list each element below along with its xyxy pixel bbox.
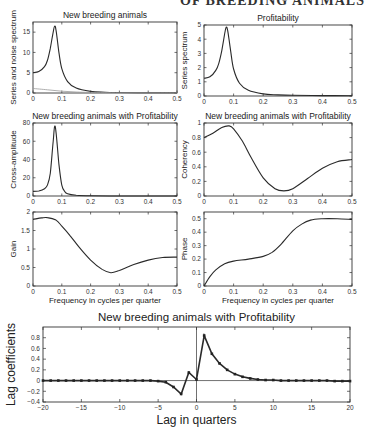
y-tick-label: 0 [197,92,201,99]
x-tick-label: 0.3 [288,198,297,205]
y-tick-label: 0.8 [31,334,40,341]
x-tick-label: 0 [31,288,35,295]
data-marker [172,386,175,389]
data-marker [188,371,191,374]
x-tick-label: 0.4 [318,198,327,205]
data-marker [111,379,114,382]
x-axis-label: Lag in quarters [156,413,236,427]
x-tick-label: 15 [308,404,316,411]
series-line [33,217,177,272]
plot-profitability-spectrum: 00.10.20.30.40.5012345ProfitabilitySerie… [180,13,357,105]
y-tick-label: 80 [23,119,31,126]
x-tick-label: 0 [202,98,206,105]
axes-frame [204,25,352,96]
x-tick-label: 0.5 [347,288,356,295]
x-tick-label: 20 [346,404,354,411]
x-tick-label: 0 [202,198,206,205]
y-tick-label: 1.5 [21,227,30,234]
x-tick-label: 0.4 [318,98,327,105]
x-tick-label: 0.1 [229,288,238,295]
x-tick-label: 0.2 [259,198,268,205]
x-tick-label: 0 [31,95,35,102]
y-tick-label: 0.2 [31,366,40,373]
data-marker [65,379,68,382]
axes-frame [204,212,352,286]
y-tick-label: 10 [23,49,31,56]
data-marker [280,379,283,382]
y-axis-label: Series and noise spectrum [9,10,18,105]
data-marker [295,379,298,382]
axes-frame [33,212,177,286]
x-tick-label: 0.4 [144,288,153,295]
data-marker [134,379,137,382]
data-marker [303,379,306,382]
x-axis-label: Frequency in cycles per quarter [222,296,334,305]
y-tick-label: 1 [197,78,201,85]
x-tick-label: 0.4 [318,288,327,295]
x-tick-label: 0.2 [86,95,95,102]
plot-cross-amplitude: 00.10.20.30.40.5020406080New breeding an… [9,111,182,205]
x-tick-label: 0.3 [115,288,124,295]
x-tick-label: 0.1 [229,98,238,105]
x-tick-label: 0.4 [144,95,153,102]
data-marker [310,379,313,382]
data-marker [326,379,329,382]
x-tick-label: 10 [270,404,278,411]
x-axis-label: Frequency in cycles per quarter [49,296,161,305]
data-marker [333,380,336,383]
data-marker [72,379,75,382]
data-marker [157,380,160,383]
y-tick-label: 15 [23,28,31,35]
y-tick-label: 0.5 [192,215,201,222]
data-marker [165,381,168,384]
data-marker [42,379,45,382]
series-line [204,27,352,96]
x-tick-label: 0.5 [347,98,356,105]
data-marker [234,373,237,376]
y-tick-label: 5 [26,69,30,76]
series-line [33,126,177,196]
x-tick-label: 0.5 [172,288,181,295]
x-tick-label: 0.3 [115,198,124,205]
series-line [33,89,177,93]
plot-title: New breeding animals with Profitability [98,311,295,323]
y-tick-label: 40 [23,156,31,163]
data-marker [211,352,214,355]
x-tick-label: 5 [233,404,237,411]
data-marker [272,379,275,382]
series-line [204,126,352,191]
x-tick-label: 0 [195,404,199,411]
y-tick-label: 0.5 [21,264,30,271]
data-marker [49,379,52,382]
y-tick-label: 0.1 [192,269,201,276]
x-tick-label: 0.3 [288,98,297,105]
y-tick-label: 0.2 [192,178,201,185]
data-marker [95,379,98,382]
data-marker [141,379,144,382]
y-tick-label: 0.4 [31,355,40,362]
x-tick-label: −5 [154,404,162,411]
y-tick-label: 60 [23,138,31,145]
y-tick-label: 0 [26,192,30,199]
data-marker [287,379,290,382]
plot-coherency: 00.10.20.30.40.500.20.40.60.81New breedi… [180,111,357,205]
y-tick-label: 2 [197,64,201,71]
x-tick-label: 0.3 [288,288,297,295]
y-tick-label: 0 [36,377,40,384]
data-marker [264,379,267,382]
plot-phase: 00.10.20.30.40.500.10.20.30.40.5PhaseFre… [180,212,357,305]
y-tick-label: 0 [26,89,30,96]
y-tick-label: 0.6 [192,149,201,156]
data-marker [103,379,106,382]
x-tick-label: 0 [31,198,35,205]
plot-gain: 00.10.20.30.40.500.511.52GainFrequency i… [9,208,182,305]
plot-title: New breeding animals [63,10,147,20]
data-marker [249,377,252,380]
y-tick-label: 20 [23,174,31,181]
data-marker [149,379,152,382]
data-marker [257,378,260,381]
data-marker [349,380,352,383]
series-line [204,219,352,286]
y-tick-label: 2 [26,208,30,215]
y-tick-label: 3 [197,50,201,57]
